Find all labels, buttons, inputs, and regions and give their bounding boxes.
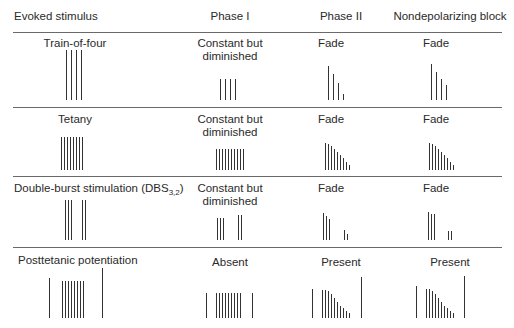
ptp-nondep-twitch-bar	[447, 308, 448, 318]
ptp-control-twitch-bar	[80, 281, 81, 318]
dbs-nondep-twitch-bar	[434, 214, 435, 240]
row-dbs-phase2: Fade	[306, 182, 356, 195]
ptp-nondep-twitch-bar	[429, 289, 430, 318]
dbs-nondep-twitch-bar	[428, 212, 429, 240]
phase1-line1: Constant but	[185, 113, 275, 126]
ptp-control-twitch-bar	[74, 281, 75, 318]
dbs-label: Double-burst stimulation (DBS	[14, 182, 169, 194]
tet-control-twitch-bar	[70, 137, 71, 170]
dbs-phase1-twitch-bar	[220, 218, 221, 240]
dbs-phase2-twitch-bar	[329, 219, 330, 240]
tof-nondep-twitch-bar	[441, 79, 442, 100]
phase1-line1: Constant but	[185, 37, 275, 50]
tet-nondep-twitch-bar	[444, 155, 445, 170]
ptp-phase2-twitch-bar	[340, 306, 341, 318]
tof-phase1-twitch-bar	[220, 79, 221, 100]
tet-phase2-twitch-bar	[328, 144, 329, 170]
tet-nondep-twitch-bar	[438, 149, 439, 170]
tet-control-twitch-bar	[73, 137, 74, 170]
tet-phase2-twitch-bar	[343, 158, 344, 170]
tet-phase1-twitch-bar	[237, 149, 238, 170]
tet-phase2-twitch-bar	[337, 152, 338, 170]
row-dbs-stimulus: Double-burst stimulation (DBS3,2)	[14, 182, 184, 195]
tof-phase2-twitch-bar	[343, 94, 344, 100]
ptp-phase2-twitch-bar	[346, 311, 347, 318]
ptp-nondep-twitch-bar	[453, 313, 454, 318]
tet-nondep-twitch-bar	[450, 162, 451, 170]
phase1-line2: diminished	[185, 126, 275, 139]
ptp-nondep-twitch-bar	[435, 294, 436, 318]
tet-phase2-twitch-bar	[349, 165, 350, 170]
tof-control-twitch-bar	[76, 50, 77, 100]
dbs-phase1-twitch-bar	[241, 215, 242, 240]
ptp-phase2-twitch-bar	[325, 290, 326, 318]
tet-phase1-twitch-bar	[228, 149, 229, 170]
row-divider	[13, 247, 502, 248]
ptp-control-twitch-bar	[77, 281, 78, 318]
dbs-phase1-twitch-bar	[217, 218, 218, 240]
row-ptp-phase2: Present	[316, 256, 366, 269]
ptp-phase2-twitch-bar	[322, 290, 323, 318]
tet-phase1-twitch-bar	[216, 149, 217, 170]
row-tof-stimulus: Train-of-four	[23, 37, 127, 50]
ptp-phase1-twitch-bar	[216, 293, 217, 318]
ptp-nondep-twitch-bar	[432, 291, 433, 318]
tof-nondep-twitch-bar	[436, 72, 437, 100]
dbs-close-paren: )	[180, 182, 184, 194]
ptp-phase2-twitch-bar	[328, 291, 329, 318]
ptp-phase2-twitch-bar	[331, 294, 332, 318]
dbs-phase2-twitch-bar	[323, 213, 324, 240]
ptp-nondep-twitch-bar	[441, 302, 442, 318]
dbs-subscript: 3,2	[169, 188, 180, 197]
tet-phase1-twitch-bar	[231, 149, 232, 170]
ptp-phase1-twitch-bar	[225, 293, 226, 318]
tet-control-twitch-bar	[64, 137, 65, 170]
phase1-line1: Constant but	[185, 182, 275, 195]
tet-nondep-twitch-bar	[447, 158, 448, 170]
ptp-phase1-twitch-bar	[237, 293, 238, 318]
ptp-control-twitch-bar	[62, 281, 63, 318]
row-dbs-nondep: Fade	[411, 182, 461, 195]
tet-phase1-twitch-bar	[240, 149, 241, 170]
tet-nondep-twitch-bar	[432, 144, 433, 170]
row-divider	[13, 176, 502, 177]
tof-nondep-twitch-bar	[446, 85, 447, 100]
ptp-phase1-twitch-bar	[252, 293, 253, 318]
ptp-nondep-twitch-bar	[416, 286, 417, 318]
header-phase-1: Phase I	[190, 10, 270, 23]
ptp-nondep-twitch-bar	[464, 276, 465, 318]
ptp-nondep-twitch-bar	[450, 311, 451, 318]
dbs-nondep-twitch-bar	[448, 231, 449, 240]
tet-phase1-twitch-bar	[222, 149, 223, 170]
dbs-phase1-twitch-bar	[223, 218, 224, 240]
ptp-phase1-twitch-bar	[228, 293, 229, 318]
ptp-phase2-twitch-bar	[349, 313, 350, 318]
tet-nondep-twitch-bar	[435, 146, 436, 170]
ptp-phase1-twitch-bar	[222, 293, 223, 318]
ptp-control-twitch-bar	[65, 281, 66, 318]
tet-phase2-twitch-bar	[334, 149, 335, 170]
tof-control-twitch-bar	[66, 50, 67, 100]
dbs-control-twitch-bar	[68, 200, 69, 240]
tof-phase1-twitch-bar	[225, 79, 226, 100]
ptp-phase1-twitch-bar	[231, 293, 232, 318]
tet-phase1-twitch-bar	[243, 149, 244, 170]
dbs-nondep-twitch-bar	[451, 231, 452, 240]
ptp-phase1-twitch-bar	[206, 293, 207, 318]
ptp-control-twitch-bar	[83, 281, 84, 318]
tet-phase2-twitch-bar	[340, 155, 341, 170]
tet-nondep-twitch-bar	[429, 143, 430, 170]
row-tetany-phase2: Fade	[306, 113, 356, 126]
tet-nondep-twitch-bar	[453, 165, 454, 170]
row-tof-phase1: Constant but diminished	[185, 37, 275, 63]
tet-control-twitch-bar	[76, 137, 77, 170]
tet-control-twitch-bar	[61, 137, 62, 170]
dbs-nondep-twitch-bar	[431, 214, 432, 240]
row-tof-phase2: Fade	[306, 37, 356, 50]
dbs-control-twitch-bar	[82, 200, 83, 240]
tof-phase2-twitch-bar	[333, 74, 334, 100]
tet-nondep-twitch-bar	[441, 152, 442, 170]
row-ptp-phase1: Absent	[205, 256, 255, 269]
phase1-line2: diminished	[185, 195, 275, 208]
row-tetany-stimulus: Tetany	[23, 113, 127, 126]
